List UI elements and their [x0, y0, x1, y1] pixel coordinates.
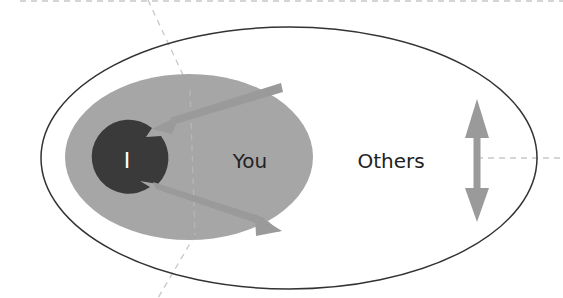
self-label: I [124, 148, 131, 173]
others-label: Others [357, 149, 424, 173]
arrow-down-head [465, 188, 489, 222]
vertical-double-arrow[interactable] [465, 99, 489, 222]
arrow-shaft [474, 137, 481, 189]
self-you-others-diagram: I You Others [0, 0, 563, 298]
diagonal-guide-line-lower [158, 235, 195, 298]
you-label: You [232, 149, 267, 173]
arrow-up-head [465, 99, 489, 138]
